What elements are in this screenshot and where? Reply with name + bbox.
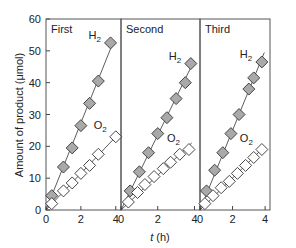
x-tick-label: 2 <box>155 213 161 225</box>
x-tick-label: 0 <box>43 213 49 225</box>
y-tick-label: 0 <box>35 204 41 216</box>
h2-data-point <box>225 128 237 140</box>
y-tick-label: 40 <box>29 77 41 89</box>
x-tick-label: 2 <box>229 213 235 225</box>
o2-data-point <box>148 171 160 183</box>
h2-data-point <box>185 58 197 70</box>
y-tick-label: 20 <box>29 140 41 152</box>
series-label-o2: O2 <box>94 119 108 134</box>
h2-data-point <box>84 97 96 109</box>
x-tick-label: 2 <box>78 213 84 225</box>
h2-data-point <box>161 112 173 124</box>
h2-data-point <box>133 166 145 178</box>
series-label-h2: H2 <box>89 29 102 44</box>
product-vs-time-chart: Amount of product (μmol) 0102030405060 F… <box>0 0 296 248</box>
y-tick-label: 60 <box>29 13 41 25</box>
h2-data-point <box>57 161 69 173</box>
h2-data-point <box>170 93 182 105</box>
o2-data-point <box>122 196 134 208</box>
o2-data-point <box>92 148 104 160</box>
series-label-o2: O2 <box>240 132 254 147</box>
y-tick-label: 50 <box>29 45 41 57</box>
panel-title: Third <box>205 23 230 35</box>
y-axis: 0102030405060 <box>29 13 50 216</box>
h2-data-point <box>233 109 245 121</box>
h2-data-point <box>92 75 104 87</box>
o2-data-point <box>139 179 151 191</box>
o2-data-point <box>57 185 69 197</box>
x-tick-label: 4 <box>262 213 268 225</box>
h2-data-point <box>256 56 268 68</box>
y-tick-label: 10 <box>29 172 41 184</box>
h2-data-point <box>243 83 255 95</box>
y-axis-label: Amount of product (μmol) <box>13 53 25 177</box>
x-tick-label: 0 <box>118 213 124 225</box>
h2-data-point <box>248 72 260 84</box>
h2-data-point <box>105 37 117 49</box>
panels: First024H2O2Second024H2O2Third024H2O2 <box>43 19 270 225</box>
series-label-o2: O2 <box>167 132 181 147</box>
panel-second: Second024H2O2 <box>118 19 200 225</box>
panel-title: First <box>51 23 72 35</box>
panel-title: Second <box>126 23 163 35</box>
h2-data-point <box>217 147 229 159</box>
h2-data-point <box>209 164 221 176</box>
h2-data-point <box>75 120 87 132</box>
y-tick-label: 30 <box>29 109 41 121</box>
panel-third: Third024H2O2 <box>197 19 270 225</box>
series-label-h2: H2 <box>240 48 253 63</box>
x-tick-label: 0 <box>197 213 203 225</box>
series-label-h2: H2 <box>169 50 182 65</box>
h2-data-point <box>152 128 164 140</box>
h2-data-point <box>143 147 155 159</box>
panel-first: First024H2O2 <box>43 19 122 225</box>
h2-data-point <box>66 142 78 154</box>
o2-data-point <box>84 159 96 171</box>
x-axis-label: t (h) <box>150 231 170 243</box>
